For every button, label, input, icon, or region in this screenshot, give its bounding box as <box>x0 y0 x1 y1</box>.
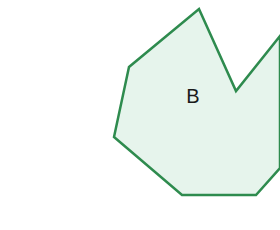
diagram-svg: B <box>0 0 280 230</box>
diagram-canvas: B <box>0 0 280 230</box>
shape-label: B <box>186 85 199 107</box>
